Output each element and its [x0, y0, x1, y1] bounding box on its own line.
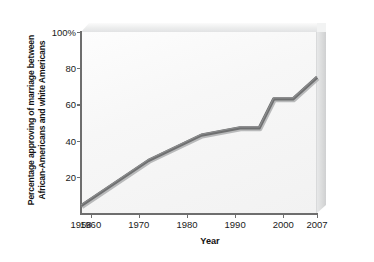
x-axis-tick-mark — [235, 213, 236, 218]
series-line — [81, 77, 317, 206]
x-axis-tick-label: 1960 — [80, 219, 101, 230]
y-axis-tick-label: 40 — [42, 135, 76, 146]
y-axis-tick-label: 100% — [42, 27, 76, 38]
y-axis-tick-mark — [77, 32, 82, 33]
plot-bevel-corner — [317, 23, 326, 32]
plot-box — [81, 32, 317, 213]
x-axis-tick-mark — [139, 213, 140, 218]
x-axis-tick-label: 1980 — [176, 219, 197, 230]
y-axis-tick-mark — [77, 68, 82, 69]
x-axis-tick-mark — [317, 213, 318, 218]
x-axis-title: Year — [0, 236, 374, 246]
series-line-approval — [81, 32, 317, 213]
y-axis-tick-mark — [77, 141, 82, 142]
y-axis-tick-mark — [77, 104, 82, 105]
y-axis-tick-label: 60 — [42, 99, 76, 110]
x-axis-tick-label: 2007 — [306, 219, 327, 230]
x-axis-tick-label: 1990 — [225, 219, 246, 230]
y-axis-tick-label: 80 — [42, 63, 76, 74]
plot-bevel-right — [317, 24, 326, 213]
y-axis-tick-label: 20 — [42, 171, 76, 182]
y-axis-title-line-1: Percentage approving of marriage between — [26, 35, 37, 205]
x-axis-tick-mark — [91, 213, 92, 218]
x-axis-tick-label: 1970 — [128, 219, 149, 230]
plot-bevel-top — [81, 23, 325, 32]
chart-figure: Percentage approving of marriage between… — [0, 0, 374, 262]
x-axis-title-text: Year — [200, 236, 219, 246]
y-axis-tick-mark — [77, 177, 82, 178]
x-axis-tick-labels: 1958196019701980199020002007 — [0, 219, 374, 233]
x-axis-tick-label: 2000 — [273, 219, 294, 230]
x-axis-tick-mark — [283, 213, 284, 218]
x-axis-tick-mark — [187, 213, 188, 218]
